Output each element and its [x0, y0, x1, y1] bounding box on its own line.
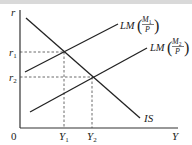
svg-text:LM: LM	[119, 20, 136, 31]
y1-label: Y1	[59, 130, 69, 144]
svg-text:P: P	[174, 47, 180, 56]
lm2-curve	[30, 48, 147, 112]
svg-text:): )	[184, 39, 189, 57]
is-lm-diagram: r Y 0 r1 r2 Y1 Y2 IS LM ( M1 P ) LM ( M2…	[0, 0, 192, 145]
lm1-curve	[25, 24, 118, 72]
is-label: IS	[143, 112, 154, 124]
y2-label: Y2	[87, 130, 97, 144]
is-curve	[26, 18, 140, 118]
svg-text:LM: LM	[149, 42, 166, 53]
r1-label: r1	[9, 46, 17, 60]
svg-text:P: P	[144, 25, 150, 34]
x-axis-label: Y	[172, 130, 180, 142]
svg-text:): )	[154, 17, 159, 35]
lm1-label: LM ( M1 P )	[119, 15, 159, 35]
svg-text:M1: M1	[141, 15, 152, 25]
svg-text:M2: M2	[171, 37, 182, 47]
lm2-label: LM ( M2 P )	[149, 37, 189, 57]
origin-label: 0	[11, 130, 17, 142]
y-axis-label: r	[11, 6, 16, 18]
r2-label: r2	[9, 71, 17, 85]
